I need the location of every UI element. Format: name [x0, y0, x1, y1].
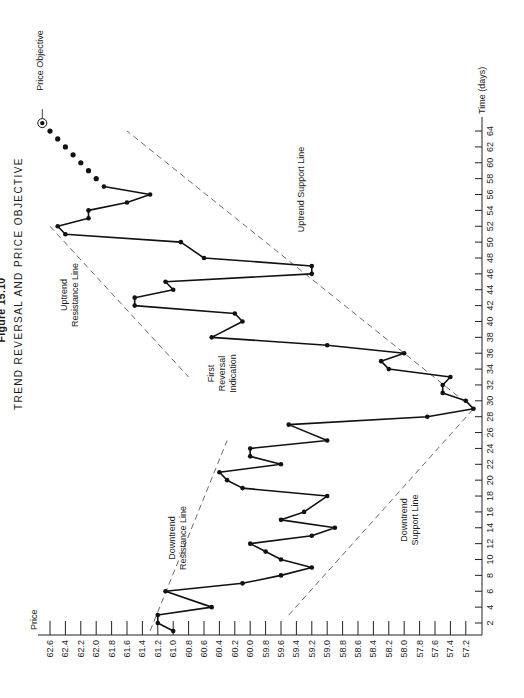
- price-point: [86, 216, 91, 221]
- price-tick-label: 60.6: [199, 640, 209, 658]
- time-tick-label: 8: [485, 573, 495, 578]
- time-tick-label: 6: [485, 589, 495, 594]
- time-tick-label: 48: [485, 253, 495, 263]
- price-point: [402, 351, 407, 356]
- price-point: [55, 224, 60, 229]
- price-point: [156, 621, 161, 626]
- price-tick-label: 60.8: [184, 640, 194, 658]
- price-tick-label: 61.2: [153, 640, 163, 658]
- price-point: [310, 533, 315, 538]
- time-tick-label: 50: [485, 237, 495, 247]
- price-tick-label: 58.0: [399, 640, 409, 658]
- price-point: [125, 200, 130, 205]
- price-point: [248, 454, 253, 459]
- price-point: [310, 272, 315, 277]
- price-point: [279, 557, 284, 562]
- downtrend-support-line: [289, 409, 474, 615]
- time-tick-label: 12: [485, 539, 495, 549]
- time-axis-label: Time (days): [477, 67, 487, 114]
- price-tick-label: 59.2: [307, 640, 317, 658]
- price-point: [202, 256, 207, 261]
- price-tick-label: 58.6: [353, 640, 363, 658]
- price-point: [310, 264, 315, 269]
- price-tick-label: 59.4: [291, 640, 301, 658]
- projected-point: [94, 176, 99, 181]
- price-tick-label: 58.2: [384, 640, 394, 658]
- projected-point: [86, 168, 91, 173]
- time-tick-label: 40: [485, 316, 495, 326]
- time-tick-label: 52: [485, 221, 495, 231]
- price-tick-label: 62.4: [60, 640, 70, 658]
- time-tick-label: 28: [485, 412, 495, 422]
- time-tick-label: 62: [485, 142, 495, 152]
- projected-point: [71, 152, 76, 157]
- trend-reversal-chart: 62.662.462.262.061.861.661.461.261.060.8…: [0, 0, 524, 698]
- price-point: [86, 208, 91, 213]
- uptrend-resistance-label: Uptrend Resistance Line: [59, 255, 81, 335]
- time-tick-label: 14: [485, 523, 495, 533]
- time-tick-label: 36: [485, 348, 495, 358]
- price-point: [464, 399, 469, 404]
- price-point: [233, 311, 238, 316]
- price-tick-label: 60.4: [214, 640, 224, 658]
- price-point: [333, 525, 338, 530]
- figure-number: Figure 15.10: [0, 210, 7, 410]
- price-tick-label: 60.2: [230, 640, 240, 658]
- price-point: [225, 478, 230, 483]
- time-tick-label: 22: [485, 459, 495, 469]
- price-point: [156, 613, 161, 618]
- price-point: [440, 391, 445, 396]
- uptrend-support-label: Uptrend Support Line: [296, 135, 307, 245]
- price-point: [63, 232, 68, 237]
- price-line: [58, 187, 474, 631]
- price-tick-label: 61.8: [107, 640, 117, 658]
- time-axis-ticks: 2468101214161820222426283032343638404244…: [475, 126, 495, 625]
- price-point: [425, 414, 430, 419]
- first-reversal-label-line1: First: [206, 344, 217, 404]
- time-tick-label: 46: [485, 269, 495, 279]
- price-point: [325, 438, 330, 443]
- price-point: [263, 549, 268, 554]
- price-point: [448, 375, 453, 380]
- price-point: [286, 422, 291, 427]
- price-point: [440, 383, 445, 388]
- time-tick-label: 42: [485, 301, 495, 311]
- price-tick-label: 57.8: [415, 640, 425, 658]
- price-point: [171, 287, 176, 292]
- price-point: [240, 581, 245, 586]
- price-point: [325, 494, 330, 499]
- price-tick-label: 57.2: [461, 640, 471, 658]
- time-tick-label: 54: [485, 205, 495, 215]
- time-tick-label: 26: [485, 428, 495, 438]
- price-point: [102, 184, 107, 189]
- price-point: [325, 343, 330, 348]
- price-point: [240, 486, 245, 491]
- price-point: [163, 589, 168, 594]
- price-tick-label: 62.0: [91, 640, 101, 658]
- price-tick-label: 60.0: [245, 640, 255, 658]
- time-tick-label: 18: [485, 491, 495, 501]
- downtrend-support-label-line2: Support Line: [410, 480, 421, 560]
- time-tick-label: 4: [485, 605, 495, 610]
- price-tick-label: 58.4: [368, 640, 378, 658]
- price-tick-label: 62.6: [45, 640, 55, 658]
- price-point: [132, 303, 137, 308]
- price-objective-label: Price Objective: [35, 11, 46, 111]
- downtrend-support-label: Downtrend Support Line: [399, 480, 421, 560]
- figure-title-block: Figure 15.10 TREND REVERSAL AND PRICE OB…: [0, 210, 45, 410]
- time-tick-label: 20: [485, 475, 495, 485]
- price-point: [209, 335, 214, 340]
- projected-point: [78, 160, 83, 165]
- price-tick-label: 61.4: [137, 640, 147, 658]
- time-tick-label: 38: [485, 332, 495, 342]
- downtrend-resistance-label-line1: Downtrend: [167, 498, 178, 578]
- price-point: [248, 541, 253, 546]
- time-tick-label: 64: [485, 126, 495, 136]
- figure-title: TREND REVERSAL AND PRICE OBJECTIVE: [13, 210, 24, 410]
- projected-point: [55, 136, 60, 141]
- time-tick-label: 10: [485, 555, 495, 565]
- price-tick-label: 59.8: [261, 640, 271, 658]
- price-point: [471, 406, 476, 411]
- price-point: [387, 367, 392, 372]
- price-tick-label: 57.6: [430, 640, 440, 658]
